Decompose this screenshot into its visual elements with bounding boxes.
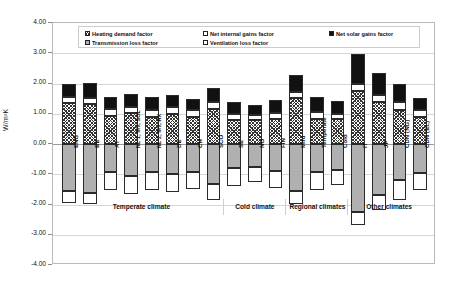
bar-segment-net-solar-gains-factor[interactable]	[227, 102, 241, 113]
bar-segment-net-internal-gains-factor[interactable]	[393, 102, 407, 109]
bar-segment-net-internal-gains-factor[interactable]	[227, 114, 241, 120]
bar-segment-ventilation-loss-factor[interactable]	[104, 172, 118, 190]
bar-segment-ventilation-loss-factor[interactable]	[124, 176, 138, 194]
bar-segment-net-internal-gains-factor[interactable]	[83, 98, 97, 104]
bar-segment-ventilation-loss-factor[interactable]	[207, 184, 221, 200]
chart-container: W/m²K 4.003.002.001.000.00-1.00-2.00-3.0…	[0, 0, 456, 292]
group-label: Other climates	[351, 203, 427, 210]
bar-column[interactable]: DE	[166, 23, 180, 263]
bar-segment-net-solar-gains-factor[interactable]	[289, 75, 303, 92]
bar-column[interactable]: BE	[83, 23, 97, 263]
legend-item[interactable]: Heating demand factor	[85, 31, 153, 37]
bar-column[interactable]: NL 2; MV, HX	[145, 23, 159, 263]
bar-column[interactable]: NL 1; MV, SOL	[124, 23, 138, 263]
bar-column[interactable]: SE	[227, 23, 241, 263]
legend-item[interactable]: Net solar gains factor	[329, 31, 393, 37]
bar-segment-net-internal-gains-factor[interactable]	[413, 110, 427, 117]
bar-column[interactable]: CDN (NG)	[393, 23, 407, 263]
bar-segment-net-solar-gains-factor[interactable]	[310, 97, 324, 112]
bar-segment-ventilation-loss-factor[interactable]	[413, 173, 427, 191]
bar-segment-ventilation-loss-factor[interactable]	[351, 212, 365, 225]
legend-item[interactable]: Ventilation loss factor	[203, 40, 268, 46]
bar-segment-transmission-loss-factor[interactable]	[104, 144, 118, 172]
bar-column[interactable]: FIN	[269, 23, 283, 263]
bar-segment-net-solar-gains-factor[interactable]	[393, 84, 407, 102]
bar-segment-heating-demand-factor[interactable]	[351, 91, 365, 144]
bar-segment-transmission-loss-factor[interactable]	[393, 144, 407, 180]
bar-column[interactable]: ENG	[62, 23, 76, 263]
bar-segment-transmission-loss-factor[interactable]	[83, 144, 97, 193]
bar-segment-transmission-loss-factor[interactable]	[289, 144, 303, 191]
group-label: Regional climates	[289, 203, 344, 210]
bar-segment-net-solar-gains-factor[interactable]	[186, 99, 200, 110]
bar-segment-net-solar-gains-factor[interactable]	[124, 94, 138, 107]
bar-segment-net-solar-gains-factor[interactable]	[207, 88, 221, 102]
bar-segment-net-internal-gains-factor[interactable]	[331, 114, 345, 119]
bar-segment-transmission-loss-factor[interactable]	[186, 144, 200, 172]
bar-category-label: IT	[362, 142, 368, 148]
bar-segment-transmission-loss-factor[interactable]	[145, 144, 159, 172]
legend-item[interactable]: Net internal gains factor	[203, 31, 274, 37]
bar-segment-heating-demand-factor[interactable]	[372, 102, 386, 144]
bar-segment-ventilation-loss-factor[interactable]	[331, 170, 345, 185]
bar-segment-transmission-loss-factor[interactable]	[413, 144, 427, 173]
bar-segment-net-solar-gains-factor[interactable]	[62, 84, 76, 98]
bar-category-label: FIN	[280, 138, 286, 148]
plot-area: ENGBEATNL 1; MV, SOLNL 2; MV, HXDECHSCOS…	[52, 22, 435, 264]
bar-segment-ventilation-loss-factor[interactable]	[248, 167, 262, 183]
bar-segment-net-solar-gains-factor[interactable]	[269, 100, 283, 112]
bar-segment-transmission-loss-factor[interactable]	[372, 144, 386, 195]
bar-segment-net-solar-gains-factor[interactable]	[372, 73, 386, 95]
legend-swatch-icon	[203, 31, 208, 36]
legend-swatch-icon	[329, 31, 334, 36]
bar-column[interactable]: SCO	[207, 23, 221, 263]
bar-column[interactable]: Mild	[289, 23, 303, 263]
bar-column[interactable]: NO	[248, 23, 262, 263]
bar-segment-net-solar-gains-factor[interactable]	[166, 95, 180, 107]
bar-segment-transmission-loss-factor[interactable]	[310, 144, 324, 172]
bar-segment-ventilation-loss-factor[interactable]	[145, 172, 159, 190]
bar-segment-ventilation-loss-factor[interactable]	[310, 172, 324, 190]
bar-segment-transmission-loss-factor[interactable]	[166, 144, 180, 174]
bar-segment-transmission-loss-factor[interactable]	[269, 144, 283, 171]
bar-segment-ventilation-loss-factor[interactable]	[166, 174, 180, 192]
bar-column[interactable]: IT	[351, 23, 365, 263]
bar-segment-net-internal-gains-factor[interactable]	[289, 92, 303, 98]
bar-segment-net-solar-gains-factor[interactable]	[104, 97, 118, 109]
bar-segment-net-solar-gains-factor[interactable]	[331, 101, 345, 114]
bar-segment-net-internal-gains-factor[interactable]	[104, 109, 118, 116]
bar-column[interactable]: CDN (EL)	[413, 23, 427, 263]
bar-segment-net-internal-gains-factor[interactable]	[186, 110, 200, 117]
bar-segment-net-solar-gains-factor[interactable]	[248, 105, 262, 116]
bar-segment-net-solar-gains-factor[interactable]	[351, 54, 365, 84]
bar-segment-ventilation-loss-factor[interactable]	[186, 172, 200, 190]
legend-item[interactable]: Transmission loss factor	[85, 40, 158, 46]
bar-segment-net-solar-gains-factor[interactable]	[83, 83, 97, 98]
bar-column[interactable]: AT	[104, 23, 118, 263]
bar-segment-net-internal-gains-factor[interactable]	[248, 115, 262, 120]
bar-segment-transmission-loss-factor[interactable]	[62, 144, 76, 191]
bar-segment-net-internal-gains-factor[interactable]	[269, 113, 283, 120]
bar-category-label: CDN (EL)	[424, 121, 430, 148]
bar-segment-net-internal-gains-factor[interactable]	[372, 95, 386, 103]
bar-segment-net-internal-gains-factor[interactable]	[166, 107, 180, 114]
bar-segment-net-internal-gains-factor[interactable]	[351, 84, 365, 91]
bar-segment-ventilation-loss-factor[interactable]	[393, 180, 407, 199]
bar-segment-net-solar-gains-factor[interactable]	[145, 97, 159, 109]
bar-segment-net-internal-gains-factor[interactable]	[62, 97, 76, 103]
bar-segment-transmission-loss-factor[interactable]	[207, 144, 221, 184]
bar-segment-ventilation-loss-factor[interactable]	[227, 168, 241, 186]
bar-segment-net-internal-gains-factor[interactable]	[207, 102, 221, 109]
bar-segment-transmission-loss-factor[interactable]	[124, 144, 138, 176]
y-axis-tick-label: -2.00	[20, 200, 46, 207]
bar-column[interactable]: Cold	[331, 23, 345, 263]
bar-column[interactable]: Temperate	[310, 23, 324, 263]
bar-segment-ventilation-loss-factor[interactable]	[62, 191, 76, 203]
legend-swatch-icon	[85, 40, 90, 45]
bar-category-label: SCO	[218, 135, 224, 148]
bar-segment-net-solar-gains-factor[interactable]	[413, 98, 427, 110]
bar-column[interactable]: JP	[372, 23, 386, 263]
bar-column[interactable]: CH	[186, 23, 200, 263]
bar-segment-heating-demand-factor[interactable]	[83, 104, 97, 144]
bar-segment-ventilation-loss-factor[interactable]	[269, 171, 283, 188]
